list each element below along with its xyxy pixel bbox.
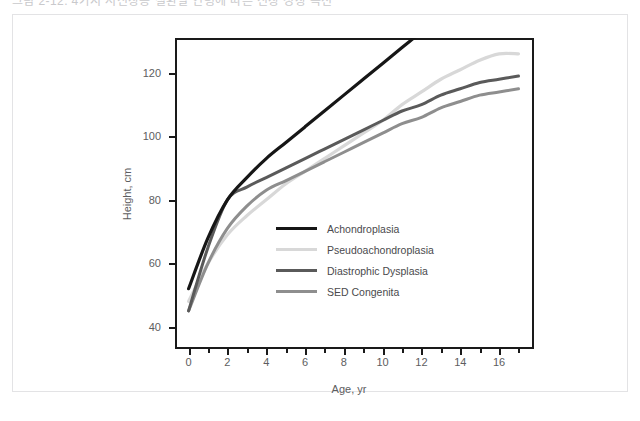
legend-swatch-line: [276, 290, 317, 293]
x-tick-mark: [189, 349, 191, 355]
legend-item[interactable]: SED Congenita: [276, 281, 491, 302]
legend-item[interactable]: Diastrophic Dysplasia: [276, 260, 491, 281]
curves-layer: [175, 38, 534, 349]
legend-swatch-line: [276, 269, 317, 272]
y-tick-mark: [169, 263, 175, 265]
x-tick-mark: [383, 349, 385, 355]
x-axis-title: Age, yr: [163, 383, 535, 395]
x-tick-label: 12: [408, 356, 434, 368]
figure-card: 406080100120 0246810121416 Age, yr Heigh…: [12, 14, 628, 392]
growth-chart: 406080100120 0246810121416 Age, yr Heigh…: [163, 38, 535, 372]
y-axis-title: Height, cm: [121, 134, 133, 254]
x-tick-mark: [344, 349, 346, 355]
x-tick-mark-minor: [480, 349, 482, 353]
y-tick-label: 120: [127, 67, 161, 79]
x-tick-mark-minor: [247, 349, 249, 353]
x-tick-mark-minor: [363, 349, 365, 353]
legend-label: SED Congenita: [327, 286, 399, 298]
x-tick-label: 8: [331, 356, 357, 368]
x-tick-mark: [460, 349, 462, 355]
legend-swatch-line: [276, 227, 317, 230]
x-tick-label: 10: [370, 356, 396, 368]
y-tick-mark: [169, 200, 175, 202]
y-tick-label: 60: [127, 257, 161, 269]
x-tick-mark: [421, 349, 423, 355]
legend-label: Pseudoachondroplasia: [327, 244, 434, 256]
x-tick-mark: [305, 349, 307, 355]
legend-item[interactable]: Pseudoachondroplasia: [276, 239, 491, 260]
x-tick-mark-minor: [324, 349, 326, 353]
legend-label: Achondroplasia: [327, 223, 399, 235]
y-tick-mark: [169, 327, 175, 329]
x-tick-mark: [266, 349, 268, 355]
legend-label: Diastrophic Dysplasia: [327, 265, 428, 277]
clipped-caption-strip: 그림 2-12. 4가지 저신장증 질환별 연령에 따른 신장 성장 곡선: [0, 0, 640, 10]
x-tick-mark-minor: [402, 349, 404, 353]
legend-item[interactable]: Achondroplasia: [276, 218, 491, 239]
x-tick-mark-minor: [286, 349, 288, 353]
x-tick-mark-minor: [518, 349, 520, 353]
y-tick-mark: [169, 73, 175, 75]
y-tick-mark: [169, 136, 175, 138]
legend-swatch-line: [276, 248, 317, 251]
x-tick-mark-minor: [208, 349, 210, 353]
x-tick-label: 2: [214, 356, 240, 368]
x-tick-label: 4: [253, 356, 279, 368]
x-tick-label: 6: [292, 356, 318, 368]
clipped-caption-text: 그림 2-12. 4가지 저신장증 질환별 연령에 따른 신장 성장 곡선: [12, 0, 333, 8]
x-tick-mark: [227, 349, 229, 355]
x-tick-mark: [499, 349, 501, 355]
x-tick-label: 16: [486, 356, 512, 368]
x-tick-label: 0: [176, 356, 202, 368]
x-tick-mark-minor: [441, 349, 443, 353]
x-tick-label: 14: [447, 356, 473, 368]
y-tick-label: 40: [127, 321, 161, 333]
chart-legend: AchondroplasiaPseudoachondroplasiaDiastr…: [276, 218, 491, 302]
